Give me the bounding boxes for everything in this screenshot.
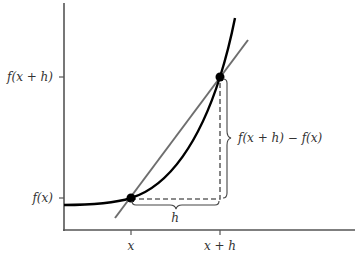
point-x bbox=[127, 194, 136, 203]
y-label-fxh: f(x + h) bbox=[6, 70, 53, 84]
point-x-plus-h bbox=[216, 73, 225, 82]
x-label-x: x bbox=[128, 239, 135, 253]
y-label-fx: f(x) bbox=[31, 191, 53, 205]
delta-x-label: h bbox=[171, 211, 179, 225]
vertical-brace bbox=[223, 79, 231, 198]
delta-y-label: f(x + h) − f(x) bbox=[237, 131, 323, 145]
x-label-xh: x + h bbox=[204, 239, 236, 253]
horizontal-brace bbox=[132, 201, 219, 209]
function-curve bbox=[64, 18, 235, 205]
secant-line bbox=[115, 40, 248, 218]
secant-diagram: f(x + h) f(x) x x + h h f(x + h) − f(x) bbox=[0, 0, 358, 260]
